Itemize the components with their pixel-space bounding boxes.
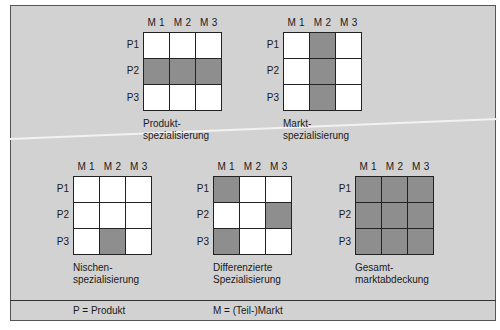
matrix-cell-empty <box>144 85 169 110</box>
matrix-cell-empty <box>126 177 151 202</box>
matrix-cell-empty <box>284 33 309 58</box>
column-label: M 2 <box>309 17 335 28</box>
matrix-cell-filled <box>382 203 407 228</box>
matrix-cell-empty <box>170 33 195 58</box>
matrix-caption: Differenzierte Spezialisierung <box>213 262 281 286</box>
matrix-differenzierte-spezialisierung: M 1 M 2 M 3 P1 P2 P3 Differenzierte Spez… <box>213 176 292 255</box>
matrix-grid <box>73 176 152 255</box>
matrix-caption: Produkt- spezialisierung <box>143 118 209 142</box>
column-labels: M 1 M 2 M 3 <box>355 161 434 172</box>
row-label: P1 <box>331 176 351 202</box>
row-label: P2 <box>331 202 351 228</box>
column-labels: M 1 M 2 M 3 <box>213 161 292 172</box>
matrix-cell-empty <box>196 33 221 58</box>
matrix-cell-filled <box>100 229 125 254</box>
matrix-cell-filled <box>214 177 239 202</box>
matrix-caption: Nischen- spezialisierung <box>73 262 139 286</box>
row-label: P2 <box>119 58 139 84</box>
matrix-cell-empty <box>126 203 151 228</box>
legend-divider <box>10 300 496 301</box>
column-label: M 2 <box>169 17 195 28</box>
matrix-cell-filled <box>214 229 239 254</box>
matrix-cell-filled <box>356 203 381 228</box>
row-labels: P1 P2 P3 <box>119 32 139 111</box>
matrix-cell-filled <box>356 229 381 254</box>
caption-line: Produkt- <box>143 118 209 130</box>
row-label: P3 <box>331 229 351 255</box>
caption-line: Spezialisierung <box>213 274 281 286</box>
column-label: M 3 <box>266 161 292 172</box>
column-label: M 3 <box>126 161 152 172</box>
row-label: P2 <box>189 202 209 228</box>
matrix-cell-filled <box>310 59 335 84</box>
column-label: M 3 <box>408 161 434 172</box>
matrix-cell-filled <box>408 177 433 202</box>
caption-line: spezialisierung <box>283 130 349 142</box>
matrix-cell-empty <box>266 229 291 254</box>
caption-line: spezialisierung <box>73 274 139 286</box>
caption-line: Nischen- <box>73 262 139 274</box>
row-label: P3 <box>119 85 139 111</box>
row-label: P1 <box>259 32 279 58</box>
column-labels: M 1 M 2 M 3 <box>143 17 222 28</box>
row-label: P3 <box>49 229 69 255</box>
matrix-caption: Gesamt- marktabdeckung <box>355 262 429 286</box>
matrix-marktspezialisierung: M 1 M 2 M 3 P1 P2 P3 Markt- spezialisier… <box>283 32 362 111</box>
column-label: M 2 <box>99 161 125 172</box>
matrix-cell-empty <box>336 33 361 58</box>
row-labels: P1 P2 P3 <box>189 176 209 255</box>
matrix-cell-empty <box>196 85 221 110</box>
matrix-cell-empty <box>144 33 169 58</box>
row-label: P3 <box>259 85 279 111</box>
row-labels: P1 P2 P3 <box>331 176 351 255</box>
matrix-cell-empty <box>240 177 265 202</box>
caption-line: marktabdeckung <box>355 274 429 286</box>
matrix-produktspezialisierung: M 1 M 2 M 3 P1 P2 P3 Produkt- spezialisi… <box>143 32 222 111</box>
matrix-grid <box>283 32 362 111</box>
column-label: M 1 <box>355 161 381 172</box>
matrix-cell-filled <box>310 85 335 110</box>
matrix-nischenspezialisierung: M 1 M 2 M 3 P1 P2 P3 Nischen- spezialisi… <box>73 176 152 255</box>
matrix-cell-empty <box>170 85 195 110</box>
matrix-cell-filled <box>144 59 169 84</box>
matrix-grid <box>143 32 222 111</box>
column-label: M 2 <box>239 161 265 172</box>
matrix-cell-empty <box>284 85 309 110</box>
caption-line: spezialisierung <box>143 130 209 142</box>
matrix-cell-empty <box>214 203 239 228</box>
column-labels: M 1 M 2 M 3 <box>283 17 362 28</box>
matrix-grid <box>355 176 434 255</box>
matrix-cell-filled <box>310 33 335 58</box>
matrix-cell-empty <box>100 203 125 228</box>
row-label: P1 <box>49 176 69 202</box>
caption-line: Differenzierte <box>213 262 281 274</box>
matrix-cell-empty <box>240 229 265 254</box>
matrix-cell-empty <box>266 177 291 202</box>
legend-market: M = (Teil-)Markt <box>213 305 283 316</box>
matrix-cell-empty <box>74 229 99 254</box>
row-label: P3 <box>189 229 209 255</box>
column-labels: M 1 M 2 M 3 <box>73 161 152 172</box>
legend-product: P = Produkt <box>73 305 125 316</box>
caption-line: Gesamt- <box>355 262 429 274</box>
matrix-cell-empty <box>74 177 99 202</box>
matrix-caption: Markt- spezialisierung <box>283 118 349 142</box>
matrix-gesamtmarktabdeckung: M 1 M 2 M 3 P1 P2 P3 Gesamt- marktabdeck… <box>355 176 434 255</box>
matrix-cell-empty <box>126 229 151 254</box>
row-labels: P1 P2 P3 <box>259 32 279 111</box>
matrix-cell-empty <box>100 177 125 202</box>
matrix-cell-filled <box>266 203 291 228</box>
column-label: M 3 <box>336 17 362 28</box>
matrix-cell-empty <box>336 85 361 110</box>
row-label: P2 <box>49 202 69 228</box>
matrix-cell-empty <box>74 203 99 228</box>
matrix-cell-filled <box>196 59 221 84</box>
column-label: M 1 <box>73 161 99 172</box>
column-label: M 2 <box>381 161 407 172</box>
matrix-cell-empty <box>336 59 361 84</box>
row-labels: P1 P2 P3 <box>49 176 69 255</box>
row-label: P1 <box>119 32 139 58</box>
matrix-cell-filled <box>382 177 407 202</box>
matrix-cell-filled <box>408 203 433 228</box>
matrix-cell-filled <box>356 177 381 202</box>
